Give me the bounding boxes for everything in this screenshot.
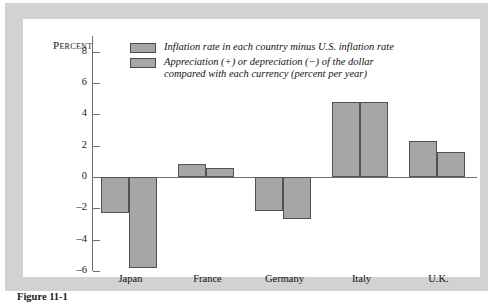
x-axis-label: Germany [246, 273, 323, 284]
figure-frame: Percent Inflation rate in each country m… [5, 3, 488, 291]
y-tick-mark [93, 271, 100, 272]
bar [283, 177, 311, 219]
y-tick-label: 8 [47, 45, 87, 56]
y-tick-label: 4 [47, 107, 87, 118]
y-tick-label: –6 [47, 264, 87, 275]
y-tick-mark [93, 208, 100, 209]
y-tick-mark [93, 146, 100, 147]
figure-caption: Figure 11-1 [17, 291, 68, 302]
y-tick-label: –4 [47, 233, 87, 244]
y-tick-mark [93, 114, 100, 115]
bar [178, 164, 206, 177]
x-axis-label: Japan [92, 273, 169, 284]
bar [332, 102, 360, 177]
y-tick-label: 6 [47, 76, 87, 87]
plot-area: 86420–2–4–6 JapanFranceGermanyItalyU.K. [92, 36, 477, 271]
y-tick-mark [93, 177, 100, 178]
x-axis-label: U.K. [400, 273, 477, 284]
y-tick-label: 2 [47, 139, 87, 150]
y-tick-label: –2 [47, 201, 87, 212]
bar [206, 168, 234, 177]
x-axis-label: Italy [323, 273, 400, 284]
bar [101, 177, 129, 213]
y-axis-line [92, 36, 93, 271]
y-tick-mark [93, 240, 100, 241]
bar [129, 177, 157, 268]
y-tick-mark [93, 83, 100, 84]
y-tick-label: 0 [47, 170, 87, 181]
bar [360, 102, 388, 177]
chart-panel: Percent Inflation rate in each country m… [23, 19, 480, 277]
bar [409, 141, 437, 177]
y-tick-mark [93, 52, 100, 53]
bar [255, 177, 283, 211]
bar [437, 152, 465, 177]
x-axis-label: France [169, 273, 246, 284]
